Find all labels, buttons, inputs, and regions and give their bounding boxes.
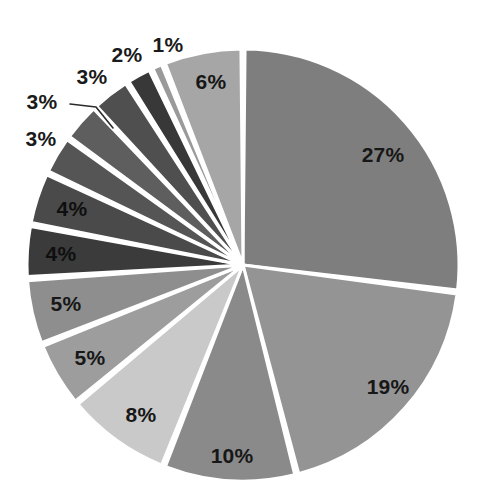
pie-slice[interactable] [243,49,459,290]
pie-chart-figure: 27%19%10%8%5%5%4%4%3%3%3%2%1%6% [0,0,477,501]
pie-slices-group [27,49,459,481]
pie-chart-canvas [0,0,477,501]
